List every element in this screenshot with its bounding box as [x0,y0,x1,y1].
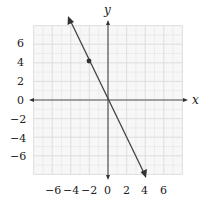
y-axis-arrow-up-icon [106,20,110,25]
x-tick: 2 [123,184,130,197]
y-tick: −6 [10,150,26,163]
x-axis-arrow-right-icon [183,98,188,102]
y-tick: 0 [17,94,24,107]
line-arrow-up-icon [68,16,75,25]
y-tick-labels: 6 4 2 0 −2 −4 −6 [10,37,26,163]
x-tick-labels: −6 −4 −2 0 2 4 6 [45,184,167,197]
x-tick: −4 [63,184,79,197]
x-tick: 0 [104,184,111,197]
y-axis-arrow-down-icon [106,175,110,180]
y-tick: 6 [17,37,24,50]
x-axis-arrow-left-icon [29,98,34,102]
y-tick: 4 [17,56,24,69]
y-tick: −2 [10,113,26,126]
x-axis-label: x [192,93,199,107]
coordinate-plane: x y −6 −4 −2 0 2 4 6 6 4 2 0 −2 −4 −6 [0,0,202,201]
x-tick: −6 [45,184,61,197]
data-point [87,59,92,64]
y-tick: −4 [10,132,26,145]
y-axis-label: y [103,3,111,17]
y-tick: 2 [17,75,24,88]
x-tick: 4 [141,184,148,197]
x-tick: 6 [160,184,167,197]
x-tick: −2 [81,184,97,197]
